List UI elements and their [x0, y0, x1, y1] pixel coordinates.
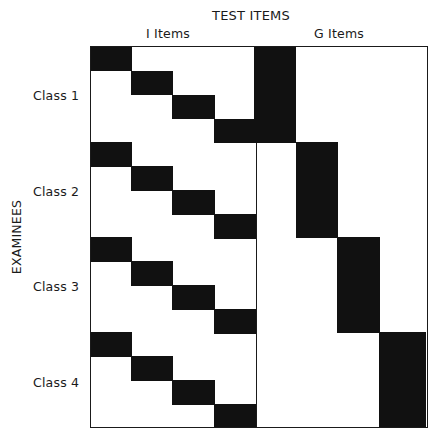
class-3-i-item-2-block: [131, 261, 173, 286]
i-items-header: I Items: [146, 27, 190, 41]
class-3-i-item-4-block: [214, 309, 257, 334]
class-1-i-item-2-block: [131, 71, 173, 96]
class-4-g-item-4-block: [379, 332, 426, 427]
class-3-label: Class 3: [33, 280, 79, 294]
g-items-header: G Items: [314, 27, 364, 41]
class-3-i-item-3-block: [172, 285, 215, 310]
class-1-g-item-1-block: [254, 47, 296, 143]
class-4-i-item-4-block: [214, 404, 257, 427]
class-3-g-item-3-block: [337, 237, 380, 333]
examinees-axis-label: EXAMINEES: [10, 200, 24, 274]
class-4-label: Class 4: [33, 376, 79, 390]
diagram-title: TEST ITEMS: [212, 9, 290, 23]
item-examinee-matrix: [90, 46, 428, 428]
class-2-i-item-2-block: [131, 166, 173, 191]
class-1-i-item-1-block: [91, 47, 132, 71]
class-1-i-item-3-block: [172, 95, 215, 120]
class-3-i-item-1-block: [91, 237, 132, 262]
class-2-g-item-2-block: [296, 142, 338, 238]
class-2-i-item-1-block: [91, 142, 132, 167]
class-2-i-item-3-block: [172, 190, 215, 215]
class-4-i-item-2-block: [131, 356, 173, 381]
class-2-i-item-4-block: [214, 214, 257, 239]
class-1-i-item-4-block: [214, 119, 257, 144]
class-4-i-item-3-block: [172, 380, 215, 405]
class-2-label: Class 2: [33, 185, 79, 199]
class-4-i-item-1-block: [91, 332, 132, 357]
class-1-label: Class 1: [33, 89, 79, 103]
